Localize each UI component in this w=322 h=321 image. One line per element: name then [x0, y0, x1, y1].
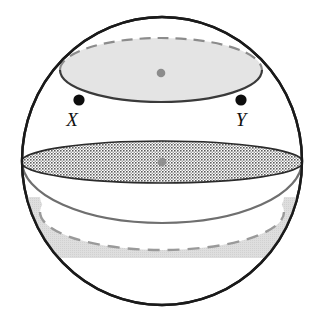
point-y-dot [235, 94, 246, 105]
upper-cap-group [60, 38, 262, 102]
point-x-dot [73, 94, 84, 105]
sphere-diagram: X Y [0, 0, 322, 321]
point-x-label: X [65, 109, 79, 130]
middle-disc-group [21, 141, 303, 183]
upper-cap-center-point [157, 69, 166, 78]
middle-disc-center-point [158, 158, 167, 167]
sphere-diagram-canvas: X Y [0, 0, 322, 321]
